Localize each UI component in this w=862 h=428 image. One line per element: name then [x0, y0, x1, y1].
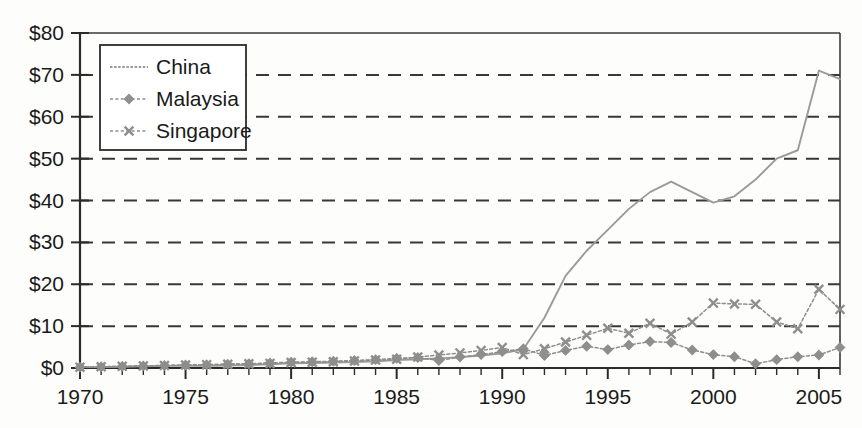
y-tick-label: $60: [29, 105, 64, 128]
y-tick-label: $30: [29, 230, 64, 253]
y-tick-label: $70: [29, 63, 64, 86]
x-tick-label: 1985: [373, 385, 420, 408]
chart-legend: ChinaMalaysiaSingapore: [100, 45, 252, 150]
x-tick-label: 1970: [57, 385, 104, 408]
y-tick-label: $40: [29, 189, 64, 212]
x-tick-label: 1980: [268, 385, 315, 408]
legend-label: Malaysia: [156, 87, 239, 110]
x-tick-label: 2000: [690, 385, 737, 408]
legend-label: Singapore: [156, 119, 252, 142]
x-tick-label: 2005: [796, 385, 843, 408]
x-tick-label: 1990: [479, 385, 526, 408]
y-tick-label: $80: [29, 21, 64, 44]
x-tick-label: 1995: [584, 385, 631, 408]
y-tick-label: $0: [41, 356, 64, 379]
x-tick-label: 1975: [162, 385, 209, 408]
y-tick-label: $20: [29, 272, 64, 295]
line-chart: $0$10$20$30$40$50$60$70$80 1970197519801…: [0, 0, 862, 428]
y-tick-label: $50: [29, 147, 64, 170]
y-tick-label: $10: [29, 314, 64, 337]
chart-container: $0$10$20$30$40$50$60$70$80 1970197519801…: [0, 0, 862, 428]
y-axis-tick-labels: $0$10$20$30$40$50$60$70$80: [29, 21, 64, 379]
legend-label: China: [156, 55, 211, 78]
